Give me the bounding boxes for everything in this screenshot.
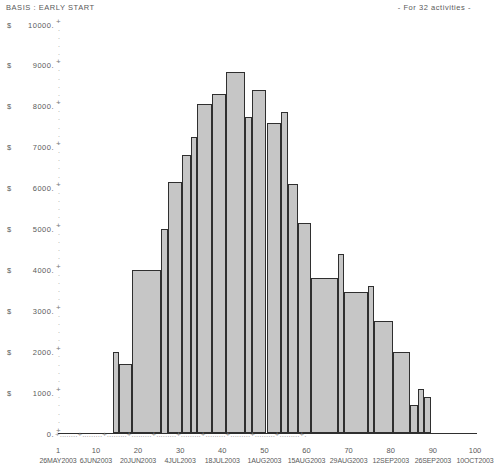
- histogram-bar: [344, 292, 367, 433]
- x-axis-tick-date: 29AUG2003: [330, 457, 368, 464]
- x-axis-tick-number: 60: [302, 446, 310, 455]
- x-axis-tick-date: 10OCT2003: [456, 457, 493, 464]
- y-axis-tick-label: 1000.: [0, 389, 54, 398]
- histogram-bar: [182, 155, 190, 433]
- y-axis-tick-label: 2000.: [0, 348, 54, 357]
- y-axis-tick-label: 4000.: [0, 266, 54, 275]
- x-axis-tick-date: 26SEP2003: [415, 457, 451, 464]
- x-axis-tick-date: 6JUN2003: [80, 457, 112, 464]
- y-axis-tick-label: 9000.: [0, 61, 54, 70]
- y-axis-tick-label: 3000.: [0, 307, 54, 316]
- histogram-bar: [311, 278, 338, 433]
- histogram-bar: [252, 90, 267, 434]
- x-axis-tick-date: 20JUN2003: [120, 457, 156, 464]
- y-axis-tick-mark: +: [56, 21, 61, 22]
- histogram-bar: [267, 123, 282, 434]
- y-axis-dotted-line: ........................................…: [58, 25, 60, 434]
- x-axis-tick-number: 40: [218, 446, 226, 455]
- histogram-bar: [212, 94, 227, 433]
- x-axis-tick-date: 1AUG2003: [247, 457, 281, 464]
- x-axis-tick-number: 90: [429, 446, 437, 455]
- x-axis-tick-number: 20: [134, 446, 142, 455]
- histogram-bar: [298, 223, 311, 434]
- x-axis-dotted-line: +........+.........+.........+.........+…: [55, 430, 484, 438]
- histogram-bar: [424, 397, 430, 434]
- x-axis-tick-date: 12SEP2003: [373, 457, 409, 464]
- y-axis-tick-label: 8000.: [0, 102, 54, 111]
- histogram-bar: [393, 352, 410, 434]
- x-axis-tick-date: 18JUL2003: [205, 457, 240, 464]
- x-axis-tick-date: 15AUG2003: [288, 457, 326, 464]
- histogram-bar: [226, 72, 245, 434]
- x-axis-tick-date: 26MAY2003: [39, 457, 76, 464]
- histogram-bar: [197, 104, 212, 433]
- x-axis-tick-number: 80: [387, 446, 395, 455]
- y-axis-tick-label: 10000.: [0, 21, 54, 30]
- x-axis-tick-number: 100: [469, 446, 482, 455]
- x-axis-tick-number: 70: [344, 446, 352, 455]
- histogram-bar: [168, 182, 183, 434]
- histogram-bar: [374, 321, 393, 433]
- histogram-bar: [288, 184, 299, 433]
- y-axis-tick-label: 7000.: [0, 143, 54, 152]
- x-axis-tick-date: 4JUL2003: [165, 457, 196, 464]
- x-axis-tick-number: 10: [92, 446, 100, 455]
- x-axis-tick-number: 50: [260, 446, 268, 455]
- x-axis-tick-number: 1: [56, 446, 60, 455]
- x-axis-tick-number: 30: [176, 446, 184, 455]
- histogram-bar: [132, 270, 161, 434]
- y-axis-tick-label: 5000.: [0, 225, 54, 234]
- histogram-bar: [119, 364, 132, 434]
- y-axis-tick-label: 0.: [0, 430, 54, 439]
- y-axis-tick-label: 6000.: [0, 184, 54, 193]
